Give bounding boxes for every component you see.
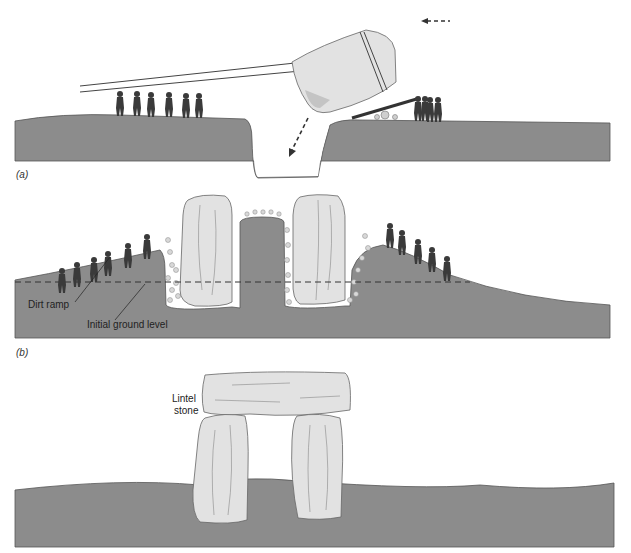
label-lintel-line1: Lintel	[172, 393, 196, 404]
pit	[253, 110, 329, 177]
upright-right	[292, 414, 343, 519]
panel-label-a: (a)	[16, 169, 28, 180]
label-initial-ground-level: Initial ground level	[87, 319, 168, 330]
label-dirt-ramp: Dirt ramp	[28, 299, 70, 310]
standing-stone-right	[293, 195, 345, 304]
panel-a: (a)	[15, 18, 610, 180]
label-lintel-line2: stone	[174, 405, 199, 416]
push-direction-arrow-icon	[421, 18, 450, 24]
tilted-stone	[292, 30, 396, 113]
lintel-stone	[202, 372, 350, 415]
panel-c: Lintel stone	[15, 372, 614, 547]
panel-b: Dirt ramp Initial ground level (b)	[15, 195, 610, 358]
stonehenge-construction-diagram: (a)	[0, 0, 631, 553]
standing-stone-left	[180, 195, 232, 306]
workers-levering	[414, 96, 442, 122]
upright-left	[193, 414, 248, 523]
panel-label-b: (b)	[16, 347, 28, 358]
workers-pulling	[116, 91, 203, 118]
